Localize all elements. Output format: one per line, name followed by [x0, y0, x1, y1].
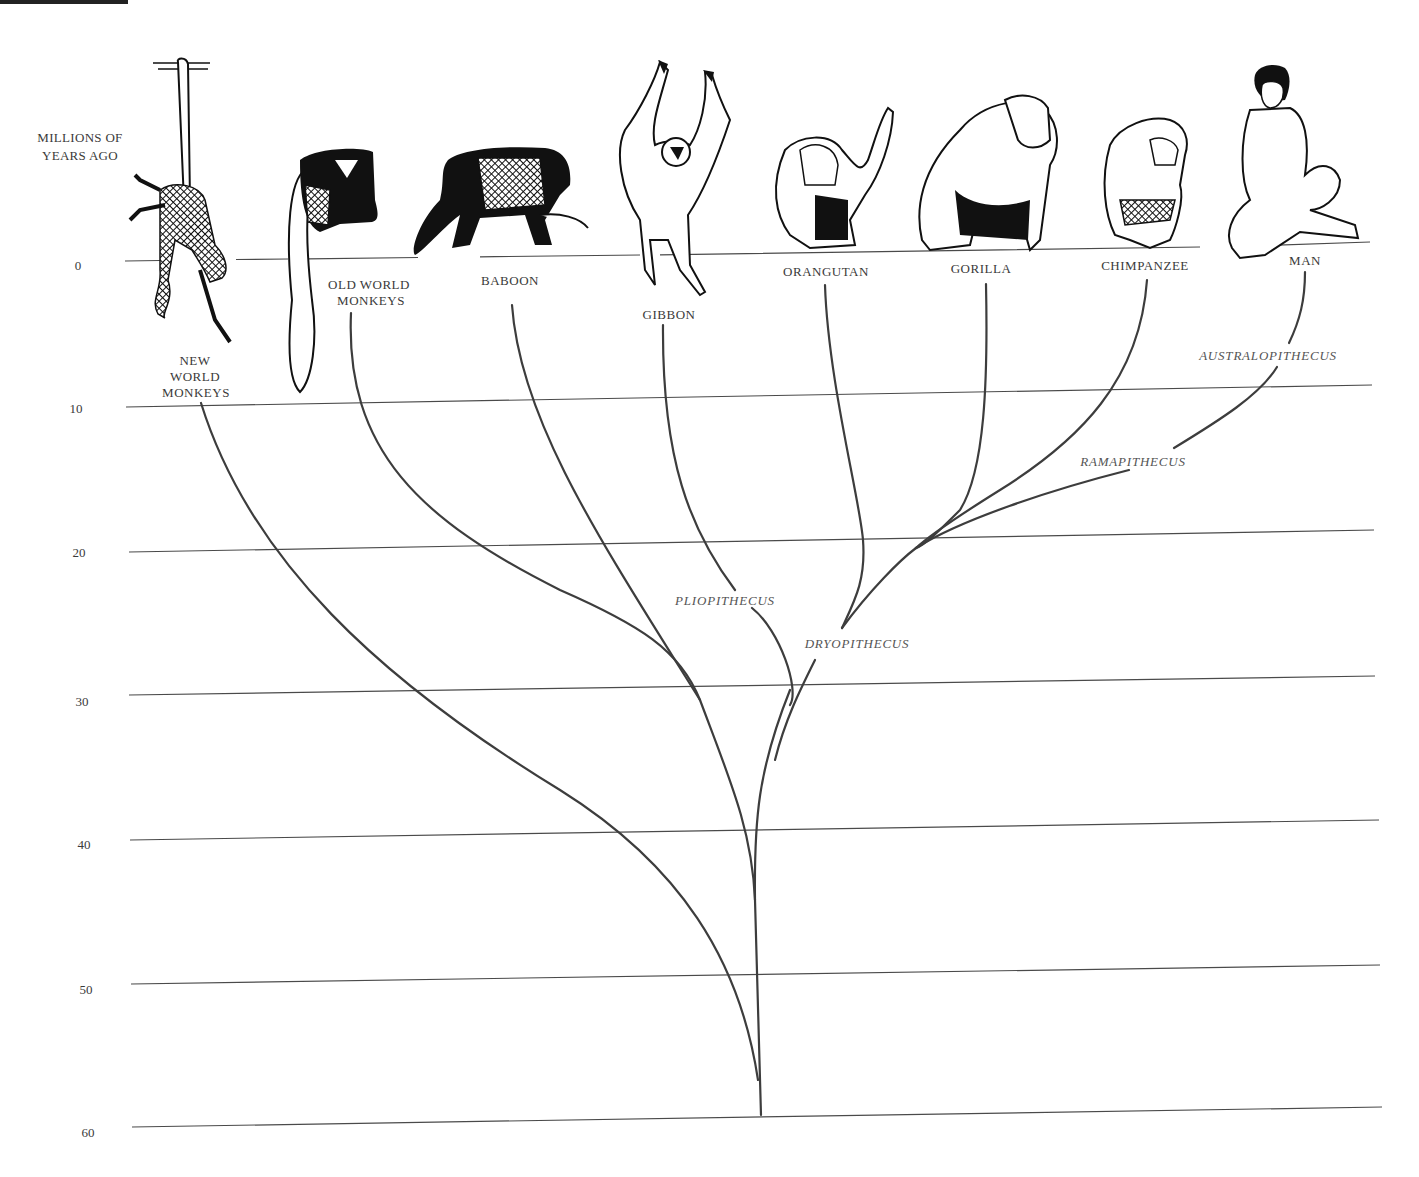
branch-gorilla — [916, 284, 987, 548]
gridline-10 — [126, 385, 1372, 407]
tick-20: 20 — [73, 545, 86, 560]
label-orangutan: ORANGUTAN — [783, 264, 869, 279]
tree-branches — [201, 272, 1305, 1115]
branch-gibbon — [663, 325, 735, 590]
label-chimpanzee: CHIMPANZEE — [1101, 258, 1189, 273]
gridline-60 — [132, 1107, 1382, 1127]
label-new-world-3: MONKEYS — [162, 385, 230, 400]
illustration-man — [1229, 65, 1358, 258]
illustration-gibbon — [620, 60, 730, 295]
label-gorilla: GORILLA — [951, 261, 1012, 276]
axis-title-line1: MILLIONS OF — [37, 130, 122, 145]
illustration-new-world-monkey — [130, 59, 230, 343]
label-australopithecus: AUSTRALOPITHECUS — [1198, 348, 1337, 363]
illustration-chimpanzee — [1105, 119, 1187, 248]
label-ramapithecus: RAMAPITHECUS — [1079, 454, 1186, 469]
label-old-world-2: MONKEYS — [337, 293, 405, 308]
illustration-baboon — [414, 147, 588, 255]
branch-chimpanzee — [916, 280, 1147, 548]
tick-60: 60 — [82, 1125, 95, 1140]
illustration-gorilla — [919, 96, 1057, 250]
primate-evolution-tree: MILLIONS OF YEARS AGO 0 10 20 30 40 50 6… — [0, 0, 1419, 1177]
fossil-labels: AUSTRALOPITHECUS RAMAPITHECUS PLIOPITHEC… — [674, 348, 1337, 651]
gridline-50 — [131, 965, 1380, 984]
gridline-20 — [129, 530, 1374, 552]
branch-dryopithecus-stem — [775, 660, 815, 760]
branch-pliopithecus — [752, 608, 793, 705]
label-dryopithecus: DRYOPITHECUS — [804, 636, 910, 651]
y-axis-ticks: 0 10 20 30 40 50 60 — [70, 258, 95, 1140]
taxon-labels: NEW WORLD MONKEYS OLD WORLD MONKEYS BABO… — [162, 253, 1321, 400]
label-new-world-2: WORLD — [170, 369, 220, 384]
branch-dryopithecus-fork — [842, 548, 916, 628]
branch-man — [1289, 272, 1305, 343]
tick-40: 40 — [78, 837, 91, 852]
tick-10: 10 — [70, 401, 83, 416]
label-pliopithecus: PLIOPITHECUS — [674, 593, 775, 608]
label-gibbon: GIBBON — [643, 307, 696, 322]
label-baboon: BABOON — [481, 273, 539, 288]
gridlines — [125, 242, 1382, 1127]
illustration-old-world-monkey — [289, 149, 378, 392]
axis-title-line2: YEARS AGO — [42, 148, 118, 163]
label-man: MAN — [1289, 253, 1321, 268]
label-old-world-1: OLD WORLD — [328, 277, 410, 292]
gridline-30 — [129, 676, 1375, 695]
branch-ramapithecus-to-australopithecus — [1174, 367, 1277, 448]
branch-trunk — [755, 690, 790, 1115]
truncated-heading — [0, 0, 128, 4]
branch-orangutan — [825, 285, 863, 628]
tick-50: 50 — [80, 982, 93, 997]
gridline-40 — [130, 820, 1379, 840]
tick-30: 30 — [76, 694, 89, 709]
tick-0: 0 — [75, 258, 82, 273]
illustration-orangutan — [776, 108, 893, 248]
branch-baboon — [512, 305, 700, 700]
label-new-world-1: NEW — [179, 353, 210, 368]
